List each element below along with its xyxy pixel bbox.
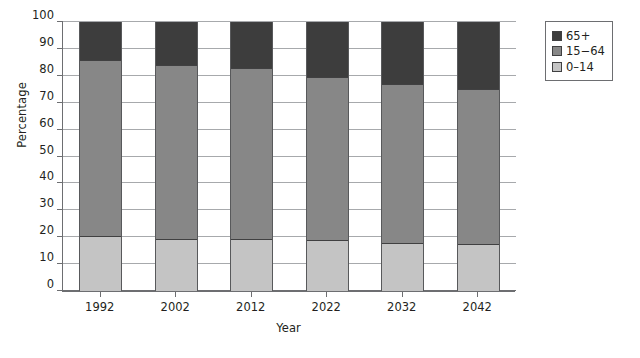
stacked-bar-1992[interactable] xyxy=(79,22,122,291)
stacked-bar-2002[interactable] xyxy=(155,22,198,291)
stacked-bar-2012[interactable] xyxy=(230,22,273,291)
stacked-bar-2022[interactable] xyxy=(306,22,349,291)
y-tick-label-30: 30 xyxy=(39,196,54,210)
bar-segment-2012-1564[interactable] xyxy=(231,68,272,239)
bar-segment-2002-014[interactable] xyxy=(156,239,197,291)
bar-segment-1992-1564[interactable] xyxy=(80,60,121,236)
plot-area: 0102030405060708090100 xyxy=(62,22,516,291)
bar-segment-1992-014[interactable] xyxy=(80,236,121,291)
legend-item-65+[interactable]: 65+ xyxy=(552,29,605,43)
bar-segment-2022-1564[interactable] xyxy=(307,77,348,240)
legend-label: 0–14 xyxy=(566,60,594,74)
bar-group-2022[interactable] xyxy=(306,22,349,291)
stacked-bar-2032[interactable] xyxy=(381,22,424,291)
x-tick-label-2002: 2002 xyxy=(161,300,190,314)
x-axis-title: Year xyxy=(62,321,515,335)
bar-segment-2042-014[interactable] xyxy=(458,244,499,291)
y-tick-label-90: 90 xyxy=(39,35,54,49)
bar-segment-2042-1564[interactable] xyxy=(458,89,499,244)
bar-group-1992[interactable] xyxy=(79,22,122,291)
y-tick-label-40: 40 xyxy=(39,169,54,183)
y-tick-label-100: 100 xyxy=(32,8,54,22)
x-tick-label-2032: 2032 xyxy=(387,300,416,314)
legend-label: 65+ xyxy=(566,29,590,43)
y-axis-title: Percentage xyxy=(15,55,29,175)
y-tick-label-60: 60 xyxy=(39,116,54,130)
bar-segment-2012-65+[interactable] xyxy=(231,22,272,68)
legend-item-1564[interactable]: 15−64 xyxy=(552,44,605,58)
bar-segment-2002-65+[interactable] xyxy=(156,22,197,65)
bar-segment-2022-014[interactable] xyxy=(307,240,348,291)
x-tick-label-2022: 2022 xyxy=(312,300,341,314)
bar-segment-1992-65+[interactable] xyxy=(80,22,121,60)
bar-group-2042[interactable] xyxy=(457,22,500,291)
bar-segment-2032-014[interactable] xyxy=(382,243,423,291)
x-tick-label-2012: 2012 xyxy=(236,300,265,314)
bar-segment-2032-1564[interactable] xyxy=(382,84,423,243)
y-tick-label-50: 50 xyxy=(39,143,54,157)
bar-segment-2032-65+[interactable] xyxy=(382,22,423,84)
bars-layer xyxy=(63,22,516,291)
x-tick-label-1992: 1992 xyxy=(85,300,114,314)
legend: 65+15−640–14 xyxy=(545,21,613,81)
bar-segment-2022-65+[interactable] xyxy=(307,22,348,77)
legend-swatch-icon xyxy=(552,62,562,72)
bar-segment-2042-65+[interactable] xyxy=(458,22,499,89)
y-tick-label-80: 80 xyxy=(39,62,54,76)
x-tick-2042 xyxy=(477,292,478,297)
bar-group-2032[interactable] xyxy=(381,22,424,291)
x-tick-2012 xyxy=(251,292,252,297)
legend-label: 15−64 xyxy=(566,44,605,58)
x-tick-1992 xyxy=(100,292,101,297)
x-axis-line xyxy=(62,291,515,292)
x-tick-2002 xyxy=(175,292,176,297)
legend-item-014[interactable]: 0–14 xyxy=(552,60,605,74)
bar-segment-2002-1564[interactable] xyxy=(156,65,197,239)
bar-segment-2012-014[interactable] xyxy=(231,239,272,291)
x-tick-2022 xyxy=(326,292,327,297)
stacked-bar-chart: Percentage 0102030405060708090100 199220… xyxy=(0,0,640,358)
y-tick-label-70: 70 xyxy=(39,89,54,103)
legend-swatch-icon xyxy=(552,46,562,56)
x-tick-label-2042: 2042 xyxy=(463,300,492,314)
x-tick-2032 xyxy=(402,292,403,297)
y-tick-label-10: 10 xyxy=(39,250,54,264)
y-tick-label-20: 20 xyxy=(39,223,54,237)
stacked-bar-2042[interactable] xyxy=(457,22,500,291)
bar-group-2002[interactable] xyxy=(155,22,198,291)
bar-group-2012[interactable] xyxy=(230,22,273,291)
legend-swatch-icon xyxy=(552,31,562,41)
y-tick-label-0: 0 xyxy=(47,277,54,291)
